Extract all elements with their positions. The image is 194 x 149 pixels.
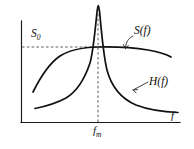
figure-container: S0 fm f S(f) H(f)	[0, 0, 194, 149]
s-of-f-label: S(f)	[134, 24, 151, 37]
fm-label-subscript: m	[96, 130, 102, 139]
spectral-density-plot: S0 fm f S(f) H(f)	[0, 0, 194, 149]
s0-label-subscript: 0	[37, 33, 41, 42]
h-of-f-label: H(f)	[148, 75, 168, 88]
